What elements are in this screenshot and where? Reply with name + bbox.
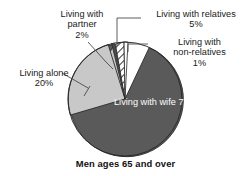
slice-label-alone-value: 20% (2, 78, 86, 88)
slice-label-wife-line2: with wife (141, 97, 176, 107)
pie-slice-living-with-non-relatives (124, 42, 128, 99)
slice-label-relatives-value: 5% (143, 19, 249, 29)
slice-label-nonrelatives-line1: Living with (150, 37, 249, 47)
slice-label-living-with-partner: Living with partner 2% (40, 9, 124, 40)
slice-label-partner-line1: Living with (40, 9, 124, 19)
slice-label-wife-value: 71% (178, 97, 196, 107)
slice-label-living-with-non-relatives: Living with non-relatives 1% (150, 37, 249, 68)
slice-label-partner-line2: partner (40, 19, 124, 29)
chart-caption: Men ages 65 and over (0, 158, 251, 169)
slice-label-alone-line1: Living alone (2, 68, 86, 78)
slice-label-nonrelatives-value: 1% (150, 58, 249, 68)
slice-label-relatives-line1: Living with relatives (143, 9, 249, 19)
slice-label-living-alone: Living alone 20% (2, 68, 86, 89)
pie-chart-figure: Living with partner 2% Living with relat… (0, 0, 251, 176)
slice-label-wife-line1: Living (114, 97, 138, 107)
slice-label-nonrelatives-line2: non-relatives (150, 47, 249, 57)
slice-label-partner-value: 2% (40, 30, 124, 40)
slice-label-living-with-relatives: Living with relatives 5% (143, 9, 249, 30)
slice-label-living-with-wife: Living with wife 71% (114, 97, 184, 108)
